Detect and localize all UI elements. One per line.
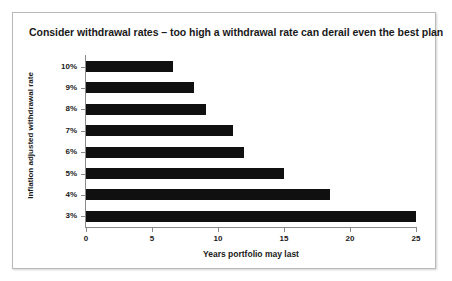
x-tick-label: 10 — [206, 234, 230, 243]
x-axis-title: Years portfolio may last — [85, 249, 417, 259]
bar-row — [86, 184, 416, 205]
bar-row — [86, 163, 416, 184]
x-tick-label: 15 — [272, 234, 296, 243]
y-tick-label: 3% — [33, 211, 77, 220]
bar-row — [86, 120, 416, 141]
x-tick-label: 25 — [404, 234, 428, 243]
y-tick-label: 7% — [33, 126, 77, 135]
x-tick — [152, 228, 153, 232]
bar-6pct — [86, 147, 244, 158]
x-tick — [218, 228, 219, 232]
y-tick-label: 4% — [33, 190, 77, 199]
bar-4pct — [86, 189, 330, 200]
x-axis-line — [85, 227, 417, 228]
x-tick — [86, 228, 87, 232]
x-tick-label: 20 — [338, 234, 362, 243]
x-tick-label: 0 — [74, 234, 98, 243]
bar-row — [86, 77, 416, 98]
bar-row — [86, 56, 416, 77]
x-tick — [416, 228, 417, 232]
chart-title: Consider withdrawal rates – too high a w… — [29, 26, 427, 38]
y-tick-label: 6% — [33, 147, 77, 156]
y-tick-label: 9% — [33, 83, 77, 92]
bar-row — [86, 99, 416, 120]
bar-5pct — [86, 168, 284, 179]
bar-row — [86, 142, 416, 163]
x-tick — [284, 228, 285, 232]
bar-8pct — [86, 104, 206, 115]
y-tick-label: 5% — [33, 169, 77, 178]
chart-frame: Consider withdrawal rates – too high a w… — [12, 12, 436, 269]
y-tick-label: 8% — [33, 104, 77, 113]
bar-7pct — [86, 125, 233, 136]
x-tick-label: 5 — [140, 234, 164, 243]
y-tick-label: 10% — [33, 62, 77, 71]
plot-area — [86, 56, 416, 227]
bar-9pct — [86, 82, 194, 93]
bar-3pct — [86, 211, 416, 222]
bar-row — [86, 206, 416, 227]
bar-10pct — [86, 61, 173, 72]
x-tick — [350, 228, 351, 232]
